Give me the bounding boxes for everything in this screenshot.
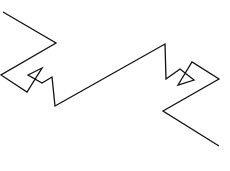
zigzag-polyline: [1, 12, 219, 146]
drawing-canvas: [0, 0, 230, 171]
line-drawing: [0, 0, 230, 171]
